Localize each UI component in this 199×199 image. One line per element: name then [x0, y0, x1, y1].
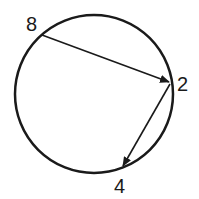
- point-label-4: 4: [114, 175, 125, 197]
- arrow-8-to-2: [42, 35, 169, 82]
- circle: [15, 15, 173, 173]
- point-label-2: 2: [177, 73, 188, 95]
- point-label-8: 8: [26, 13, 37, 35]
- diagram-canvas: 8 2 4: [0, 0, 199, 199]
- circle-diagram: 8 2 4: [0, 0, 199, 199]
